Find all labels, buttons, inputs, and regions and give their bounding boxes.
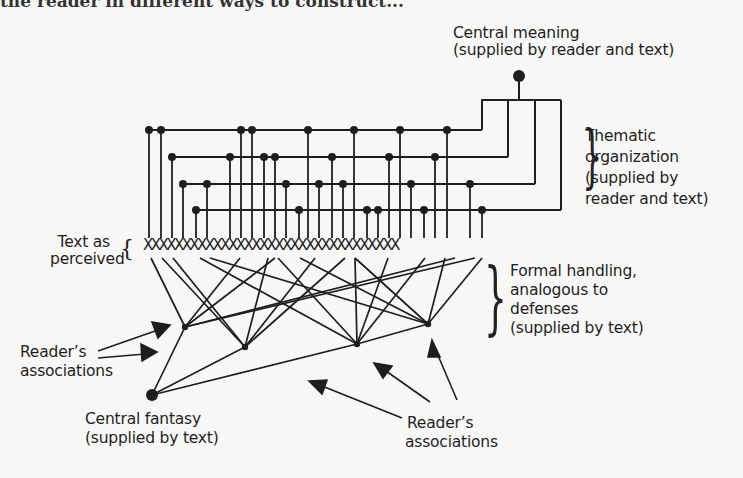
readers-associations-bottom-label: Reader’s associations [405,414,498,452]
thematic-organization-label: Thematic organization (supplied by reade… [585,126,708,210]
central-fantasy-label: Central fantasy (supplied by text) [85,410,219,448]
formal-handling-label: Formal handling, analogous to defenses (… [510,262,644,338]
formal-handling-network [151,258,482,395]
thematic-nodes [145,70,525,214]
central-meaning-label: Central meaning (supplied by reader and … [453,25,674,59]
formal-handling-brace: } [484,243,507,353]
readers-associations-left-label: Reader’s associations [20,343,113,381]
association-arrows [98,322,457,418]
text-as-perceived-row: XXXXXXXXXXXXXXXXXXXXXXXXXXXXXXXXX [143,236,398,254]
text-as-perceived-brace: { [120,236,134,261]
central-fantasy-node [146,389,158,401]
text-as-perceived-label: Text as perceived [50,234,110,268]
thematic-organization-tree [149,77,561,238]
